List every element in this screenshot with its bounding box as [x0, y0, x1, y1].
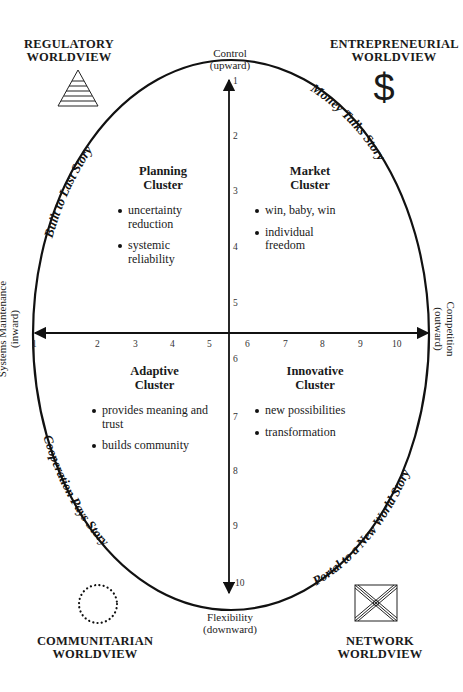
cluster-title-line1: Market	[255, 164, 365, 178]
axis-label-line1: Control	[190, 47, 270, 59]
cluster-bullets: win, baby, win individual freedom	[255, 204, 375, 253]
bullet-item: win, baby, win	[255, 204, 385, 218]
worldview-entrepreneurial: ENTREPRENEURIAL WORLDVIEW	[330, 38, 458, 64]
cluster-bullets: uncertainty reduction systemic reliabili…	[118, 204, 228, 266]
dollar-icon: $	[364, 66, 404, 110]
worldview-title-line2: WORLDVIEW	[330, 648, 430, 661]
cluster-title-line1: Innovative	[255, 364, 375, 378]
cluster-innovative: Innovative Cluster new possibilities tra…	[255, 364, 385, 447]
bullet-item: provides meaning and trust	[92, 404, 214, 431]
axis-label-line1: Competition	[445, 279, 457, 379]
cluster-title: Adaptive Cluster	[92, 364, 217, 392]
bullet-item: individual freedom	[255, 226, 335, 253]
h-tick: 5	[207, 339, 212, 349]
v-tick: 1	[233, 76, 238, 86]
axis-label-flexibility: Flexibility (downward)	[190, 611, 270, 635]
axis-label-competition: Competition (outward)	[433, 279, 457, 379]
bullet-item: uncertainty reduction	[118, 204, 218, 231]
axis-label-line2: (outward)	[433, 279, 445, 379]
axis-label-line2: (upward)	[190, 59, 270, 71]
v-tick: 7	[233, 412, 238, 422]
dotted-circle-icon	[79, 585, 117, 623]
v-tick: 10	[235, 578, 245, 588]
axis-label-control: Control (upward)	[190, 47, 270, 71]
cluster-adaptive: Adaptive Cluster provides meaning and tr…	[92, 364, 222, 461]
bullet-item: systemic reliability	[118, 239, 208, 266]
h-tick: 4	[170, 339, 175, 349]
story-built-to-last: Built to Last Story	[41, 143, 96, 241]
h-tick: 10	[392, 339, 402, 349]
worldview-title-line2: WORLDVIEW	[330, 51, 458, 64]
axis-label-systems-maintenance: Systems Maintenance (inward)	[0, 269, 20, 389]
bullet-item: transformation	[255, 426, 395, 440]
cluster-title-line2: Cluster	[255, 378, 375, 392]
story-portal-new-world: Portal to a New World Story	[310, 467, 413, 589]
h-tick: 8	[320, 339, 325, 349]
cluster-market: Market Cluster win, baby, win individual…	[255, 164, 375, 261]
axis-label-line2: (downward)	[190, 623, 270, 635]
v-tick: 5	[233, 298, 238, 308]
worldview-network: NETWORK WORLDVIEW	[330, 635, 430, 661]
worldview-title-line2: WORLDVIEW	[30, 648, 160, 661]
worldview-regulatory: REGULATORY WORLDVIEW	[14, 38, 124, 64]
pyramid-icon	[58, 70, 98, 106]
cluster-title: Planning Cluster	[118, 164, 208, 192]
h-tick: 2	[95, 339, 100, 349]
h-tick: 6	[245, 339, 250, 349]
h-tick: 1	[32, 339, 37, 349]
bullet-item: new possibilities	[255, 404, 395, 418]
bullet-item: builds community	[92, 439, 232, 453]
axis-label-line1: Systems Maintenance	[0, 269, 8, 389]
v-tick: 3	[233, 186, 238, 196]
worldview-communitarian: COMMUNITARIAN WORLDVIEW	[30, 635, 160, 661]
v-tick: 8	[233, 466, 238, 476]
cluster-title-line2: Cluster	[255, 178, 365, 192]
cluster-title: Innovative Cluster	[255, 364, 375, 392]
cluster-title-line1: Planning	[118, 164, 208, 178]
h-tick: 3	[133, 339, 138, 349]
v-tick: 2	[233, 131, 238, 141]
cluster-title-line2: Cluster	[118, 178, 208, 192]
cluster-title-line1: Adaptive	[92, 364, 217, 378]
cluster-planning: Planning Cluster uncertainty reduction s…	[118, 164, 228, 274]
cluster-title-line2: Cluster	[92, 378, 217, 392]
axis-label-line1: Flexibility	[190, 611, 270, 623]
cluster-bullets: provides meaning and trust builds commun…	[92, 404, 222, 453]
cluster-bullets: new possibilities transformation	[255, 404, 385, 439]
v-tick: 4	[233, 242, 238, 252]
cluster-title: Market Cluster	[255, 164, 365, 192]
axis-label-line2: (inward)	[8, 269, 20, 389]
worldview-title-line2: WORLDVIEW	[14, 51, 124, 64]
h-tick: 9	[358, 339, 363, 349]
network-box-icon	[355, 585, 397, 621]
v-tick: 6	[233, 354, 238, 364]
h-tick: 7	[283, 339, 288, 349]
v-tick: 9	[233, 521, 238, 531]
